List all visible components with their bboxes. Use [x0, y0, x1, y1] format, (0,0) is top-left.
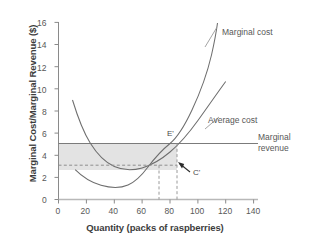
y-tick-2: 2 [42, 173, 47, 183]
x-tick-100: 100 [190, 206, 204, 216]
marginal-revenue-label-1: Marginalrevenue [258, 132, 291, 153]
marginal-cost-label: Marginal cost [222, 27, 273, 37]
chart-figure: Marginal Cost/Marginal Revenue ($) Quant… [0, 0, 321, 245]
x-tick-80: 80 [165, 206, 174, 216]
x-tick-40: 40 [109, 206, 118, 216]
x-tick-20: 20 [81, 206, 90, 216]
x-tick-0: 0 [56, 206, 61, 216]
equilibrium-point-label: E' [167, 129, 174, 138]
y-tick-12: 12 [37, 63, 46, 73]
cost-point-label: C' [193, 168, 200, 177]
marginal-revenue-label-line2: revenue [258, 143, 291, 153]
y-tick-8: 8 [42, 107, 47, 117]
x-tick-140: 140 [246, 206, 260, 216]
y-tick-14: 14 [37, 40, 46, 50]
y-tick-10: 10 [37, 85, 46, 95]
y-axis-ticks [55, 22, 59, 199]
x-axis-label: Quantity (packs of raspberries) [40, 222, 270, 233]
marginal-revenue-label-line1: Marginal [258, 132, 291, 142]
y-tick-6: 6 [42, 129, 47, 139]
x-tick-60: 60 [137, 206, 146, 216]
y-tick-4: 4 [42, 151, 47, 161]
cost-point-arrow [178, 162, 190, 172]
average-cost-label: Average cost [208, 115, 257, 125]
y-axis-label: Marginal Cost/Marginal Revenue ($) [27, 9, 38, 199]
y-tick-16: 16 [37, 18, 46, 28]
y-tick-0: 0 [42, 195, 47, 205]
x-tick-120: 120 [218, 206, 232, 216]
